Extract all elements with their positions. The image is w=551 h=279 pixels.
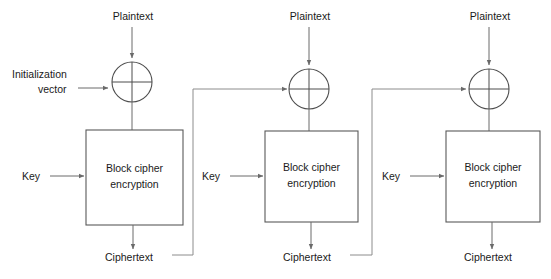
iv-label-line1: Initialization xyxy=(12,68,67,80)
stage-2: Plaintext Key Block cipher encryption Ci… xyxy=(202,10,466,263)
block-cipher-label-1-line1: Block cipher xyxy=(106,162,164,174)
xor-gate-3 xyxy=(469,69,509,109)
ciphertext-label-3: Ciphertext xyxy=(464,251,512,263)
iv-label-line2: vector xyxy=(38,83,67,95)
plaintext-label-1: Plaintext xyxy=(113,10,153,22)
block-cipher-label-2-line2: encryption xyxy=(287,177,336,189)
stage-3: Plaintext Key Block cipher encryption Ci… xyxy=(382,10,540,263)
key-label-1: Key xyxy=(22,170,41,182)
stage-1: Plaintext Initialization vector Key Bloc… xyxy=(12,10,287,263)
xor-gate-1 xyxy=(112,62,152,102)
ciphertext-label-2: Ciphertext xyxy=(283,251,331,263)
cbc-encryption-diagram: Plaintext Initialization vector Key Bloc… xyxy=(0,0,551,279)
block-cipher-label-2-line1: Block cipher xyxy=(283,161,341,173)
plaintext-label-2: Plaintext xyxy=(290,10,330,22)
block-cipher-label-1-line2: encryption xyxy=(110,178,159,190)
block-cipher-label-3-line1: Block cipher xyxy=(464,161,522,173)
diagram-canvas: Plaintext Initialization vector Key Bloc… xyxy=(0,0,551,279)
block-cipher-label-3-line2: encryption xyxy=(469,177,518,189)
ciphertext-label-1: Ciphertext xyxy=(105,251,153,263)
key-label-3: Key xyxy=(382,170,401,182)
key-label-2: Key xyxy=(202,170,221,182)
xor-gate-2 xyxy=(289,69,329,109)
plaintext-label-3: Plaintext xyxy=(470,10,510,22)
